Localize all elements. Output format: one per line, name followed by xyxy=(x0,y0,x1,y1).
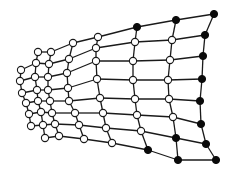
open-node-icon xyxy=(108,139,115,146)
mesh-edge xyxy=(100,98,135,99)
open-node-icon xyxy=(71,109,78,116)
open-node-icon xyxy=(27,122,34,129)
filled-node-icon xyxy=(172,134,179,141)
mesh-edge xyxy=(141,131,176,138)
filled-node-icon xyxy=(174,156,181,163)
filled-node-icon xyxy=(201,31,208,38)
open-node-icon xyxy=(17,66,24,73)
filled-node-icon xyxy=(210,10,217,17)
open-node-icon xyxy=(165,95,172,102)
open-node-icon xyxy=(65,97,72,104)
open-node-icon xyxy=(80,135,87,142)
open-node-icon xyxy=(51,120,58,127)
open-node-icon xyxy=(99,109,106,116)
mesh-edge xyxy=(69,98,100,101)
open-node-icon xyxy=(34,97,41,104)
filled-node-icon xyxy=(197,120,204,127)
filled-node-icon xyxy=(172,16,179,23)
mesh-diagram xyxy=(0,0,229,174)
open-node-icon xyxy=(166,56,173,63)
mesh-edge xyxy=(135,40,172,42)
mesh-edge xyxy=(69,48,96,59)
open-node-icon xyxy=(63,69,70,76)
open-node-icon xyxy=(69,39,76,46)
open-node-icon xyxy=(46,97,53,104)
mesh-edge xyxy=(84,139,112,143)
filled-node-icon xyxy=(133,23,140,30)
filled-node-icon xyxy=(202,140,209,147)
mesh-edge xyxy=(148,150,178,160)
open-node-icon xyxy=(131,38,138,45)
open-node-icon xyxy=(168,36,175,43)
mesh-edge xyxy=(67,61,96,73)
open-node-icon xyxy=(18,89,25,96)
open-node-icon xyxy=(129,57,136,64)
open-node-icon xyxy=(39,121,46,128)
open-node-icon xyxy=(169,113,176,120)
open-node-icon xyxy=(92,57,99,64)
mesh-edge xyxy=(96,42,135,48)
open-node-icon xyxy=(55,132,62,139)
open-node-icon xyxy=(37,108,44,115)
mesh-edge xyxy=(133,60,170,61)
open-node-icon xyxy=(16,77,23,84)
open-node-icon xyxy=(41,134,48,141)
mesh-edge xyxy=(137,20,176,27)
mesh-edge xyxy=(106,128,141,131)
open-node-icon xyxy=(31,73,38,80)
mesh-edge xyxy=(169,99,200,101)
open-node-icon xyxy=(64,84,71,91)
open-node-icon xyxy=(75,121,82,128)
open-node-icon xyxy=(92,44,99,51)
open-node-icon xyxy=(131,95,138,102)
filled-node-icon xyxy=(144,146,151,153)
mesh-edge xyxy=(97,79,133,80)
filled-node-icon xyxy=(212,156,219,163)
mesh-edge xyxy=(103,113,137,115)
open-node-icon xyxy=(129,76,136,83)
filled-node-icon xyxy=(198,75,205,82)
open-node-icon xyxy=(34,48,41,55)
mesh-edge xyxy=(170,56,203,60)
mesh-edge xyxy=(98,27,137,37)
open-node-icon xyxy=(25,110,32,117)
open-node-icon xyxy=(93,75,100,82)
open-node-icon xyxy=(48,109,55,116)
open-node-icon xyxy=(44,86,51,93)
mesh-edge xyxy=(173,117,201,124)
open-node-icon xyxy=(164,76,171,83)
mesh-edge xyxy=(176,138,206,144)
open-node-icon xyxy=(94,33,101,40)
open-node-icon xyxy=(47,48,54,55)
open-node-icon xyxy=(32,59,39,66)
filled-node-icon xyxy=(199,52,206,59)
open-node-icon xyxy=(137,127,144,134)
open-node-icon xyxy=(102,124,109,131)
mesh-edge xyxy=(168,79,202,80)
open-node-icon xyxy=(44,73,51,80)
open-node-icon xyxy=(45,60,52,67)
mesh-edge xyxy=(112,143,148,150)
filled-node-icon xyxy=(196,97,203,104)
open-node-icon xyxy=(96,94,103,101)
mesh-edge xyxy=(176,14,214,20)
mesh-edge xyxy=(172,35,205,40)
open-node-icon xyxy=(133,111,140,118)
open-node-icon xyxy=(33,86,40,93)
open-node-icon xyxy=(65,55,72,62)
open-node-icon xyxy=(22,99,29,106)
mesh-edge xyxy=(137,115,173,117)
mesh-edge xyxy=(68,79,97,88)
